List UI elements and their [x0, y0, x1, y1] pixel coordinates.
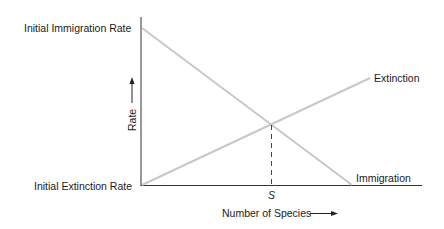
immigration-line [142, 28, 352, 185]
initial-extinction-rate-label: Initial Extinction Rate [34, 180, 132, 192]
species-arrow-head-icon [331, 211, 338, 216]
species-axis-label: Number of Species [222, 207, 311, 219]
extinction-label: Extinction [374, 72, 420, 84]
diagram-canvas [0, 0, 444, 229]
equilibrium-s-label: S [268, 189, 275, 201]
rate-arrow-head-icon [130, 77, 135, 84]
immigration-label: Immigration [356, 172, 411, 184]
rate-axis-label: Rate [126, 109, 138, 131]
initial-immigration-rate-label: Initial Immigration Rate [24, 22, 131, 34]
extinction-line [142, 78, 370, 185]
